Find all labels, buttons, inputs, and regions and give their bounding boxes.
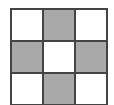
grid-cell-0-1-shaded — [44, 10, 76, 42]
grid-cell-2-1-shaded — [44, 74, 76, 105]
grid-cell-2-2-empty — [76, 74, 108, 105]
grid-cell-1-1-empty — [44, 42, 76, 74]
grid-cell-1-2-shaded — [76, 42, 108, 74]
grid-diagram — [10, 8, 108, 105]
grid-cell-1-0-shaded — [12, 42, 44, 74]
grid-cell-0-0-empty — [12, 10, 44, 42]
grid-cell-0-2-empty — [76, 10, 108, 42]
grid-cell-2-0-empty — [12, 74, 44, 105]
